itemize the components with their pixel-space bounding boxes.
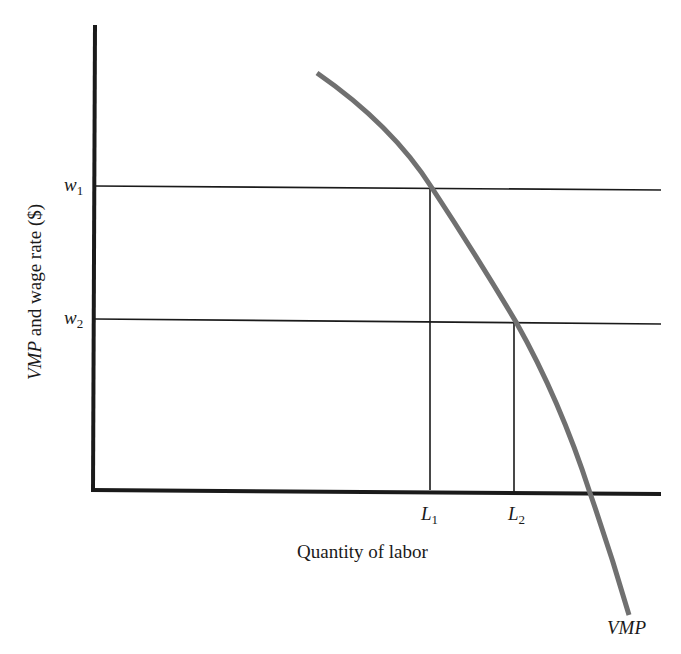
vmp-curve [317,73,629,615]
wage-label-w2: w2 [64,307,83,331]
labor-label-l1: L1 [420,503,438,527]
wage-line-w2 [95,319,661,324]
wage-label-w1: w1 [64,174,83,198]
x-axis [91,490,661,494]
x-axis-label: Quantity of labor [297,541,429,562]
vmp-curve-label: VMP [607,617,646,638]
y-axis-label: VMP and wage rate ($) [24,204,46,380]
wage-line-w1 [95,186,661,190]
labor-label-l2: L2 [507,503,525,527]
y-axis [93,25,95,491]
vmp-wage-diagram: VMP and wage rate ($) w1 w2 L1 L2 Quanti… [0,0,681,654]
